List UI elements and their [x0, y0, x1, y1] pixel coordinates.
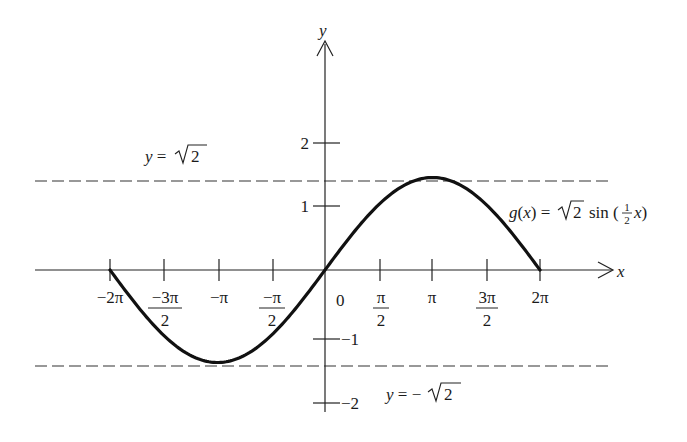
chart-canvas: x y −2π −3π 2 −π −π 2 0 π 2 π 3π 2 2π 2 …: [0, 0, 687, 442]
y-tick-label: −1: [341, 330, 359, 349]
function-label: g(x) = 2 sin ( 1 2 x): [509, 201, 647, 226]
upper-asymptote-label: y = 2: [143, 145, 207, 166]
x-tick-label: −π: [263, 288, 282, 307]
svg-text:y = −: y = −: [384, 385, 421, 404]
y-axis-label: y: [317, 21, 327, 40]
svg-text:x): x): [633, 203, 647, 222]
x-tick-label: 2: [377, 311, 386, 330]
svg-text:g(x) =: g(x) =: [509, 203, 550, 222]
x-axis-label: x: [616, 262, 625, 281]
origin-label: 0: [336, 291, 345, 310]
svg-text:2: 2: [444, 385, 453, 404]
x-tick-label: −3π: [152, 288, 179, 307]
y-tick-label: 2: [301, 134, 310, 153]
y-tick-label: −2: [341, 394, 359, 413]
svg-text:sin (: sin (: [589, 203, 619, 222]
lower-asymptote-label: y = − 2: [384, 383, 461, 404]
svg-text:2: 2: [573, 203, 582, 222]
x-tick-label: −π: [210, 288, 229, 307]
svg-text:y =: y =: [143, 147, 166, 166]
svg-text:1: 1: [624, 201, 630, 213]
y-axis: [313, 41, 340, 412]
svg-text:2: 2: [624, 214, 630, 226]
x-tick-label: −2π: [97, 288, 124, 307]
x-tick-label: 2: [483, 311, 492, 330]
x-tick-label: 3π: [478, 288, 496, 307]
x-tick-label: π: [428, 288, 437, 307]
y-tick-label: 1: [301, 197, 310, 216]
x-tick-label: π: [377, 288, 386, 307]
x-tick-label: 2: [268, 311, 277, 330]
x-tick-label: 2π: [531, 288, 549, 307]
x-tick-label: 2: [161, 311, 170, 330]
svg-text:2: 2: [191, 147, 200, 166]
